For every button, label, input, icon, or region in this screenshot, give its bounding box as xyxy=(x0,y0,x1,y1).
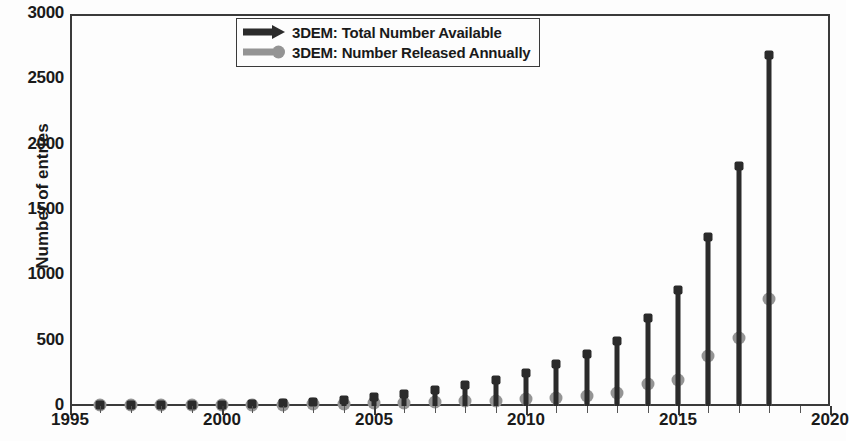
x-tick-mark-minor xyxy=(496,406,497,413)
stem-total xyxy=(671,290,685,406)
y-tick-label: 500 xyxy=(37,330,64,350)
x-tick-label: 2015 xyxy=(659,410,697,430)
x-tick-label: 2010 xyxy=(507,410,545,430)
x-tick-mark-minor xyxy=(617,406,618,413)
stem-arrow-marker-icon xyxy=(582,349,591,358)
stem-total xyxy=(519,373,533,406)
x-tick-mark-minor xyxy=(283,406,284,413)
stem-line xyxy=(676,290,681,406)
stem-arrow-marker-icon xyxy=(613,336,622,345)
y-tick-label: 2000 xyxy=(27,134,64,154)
stem-total xyxy=(549,364,563,406)
x-tick-mark-minor xyxy=(556,406,557,413)
x-tick-mark-minor xyxy=(313,406,314,413)
chart-legend: 3DEM: Total Number Available 3DEM: Numbe… xyxy=(236,18,540,67)
stem-line xyxy=(584,354,589,406)
x-tick-mark-minor xyxy=(739,406,740,413)
x-tick-mark-minor xyxy=(648,406,649,413)
stem-line xyxy=(554,364,559,406)
y-tick-label: 2500 xyxy=(27,68,64,88)
y-tick-label: 3000 xyxy=(27,3,64,23)
x-tick-mark-minor xyxy=(800,406,801,413)
x-tick-mark-minor xyxy=(435,406,436,413)
y-tick-label: 1500 xyxy=(27,199,64,219)
x-tick-mark-minor xyxy=(252,406,253,413)
stem-total xyxy=(580,354,594,406)
stem-total xyxy=(489,380,503,406)
stem-total xyxy=(610,341,624,406)
stem-total xyxy=(458,385,472,406)
stem-arrow-marker-icon xyxy=(461,381,470,390)
stem-line xyxy=(767,55,772,406)
stem-total xyxy=(762,55,776,406)
stem-total xyxy=(701,237,715,406)
y-tick-label: 1000 xyxy=(27,264,64,284)
stem-arrow-marker-icon xyxy=(430,385,439,394)
x-tick-mark-minor xyxy=(161,406,162,413)
x-tick-mark-minor xyxy=(587,406,588,413)
legend-item-annual: 3DEM: Number Released Annually xyxy=(243,42,531,62)
x-tick-label: 2020 xyxy=(811,410,849,430)
stem-arrow-marker-icon xyxy=(491,375,500,384)
stem-line xyxy=(524,373,529,406)
stem-total xyxy=(397,394,411,406)
legend-circle-marker-icon xyxy=(243,45,285,59)
stem-line xyxy=(615,341,620,406)
stem-arrow-marker-icon xyxy=(765,50,774,59)
x-tick-mark-minor xyxy=(131,406,132,413)
legend-item-total: 3DEM: Total Number Available xyxy=(243,22,531,42)
x-tick-label: 2000 xyxy=(203,410,241,430)
plot-area xyxy=(70,14,830,406)
x-tick-mark-minor xyxy=(465,406,466,413)
x-tick-mark-minor xyxy=(769,406,770,413)
x-tick-label: 1995 xyxy=(51,410,89,430)
stem-line xyxy=(645,318,650,406)
stem-total xyxy=(732,166,746,406)
stem-total xyxy=(428,390,442,406)
legend-label-annual: 3DEM: Number Released Annually xyxy=(292,44,531,61)
stem-total xyxy=(367,397,381,406)
stem-arrow-marker-icon xyxy=(643,314,652,323)
stem-arrow-marker-icon xyxy=(674,285,683,294)
stem-arrow-marker-icon xyxy=(522,368,531,377)
stem-arrow-marker-icon xyxy=(339,395,348,404)
stem-arrow-marker-icon xyxy=(734,161,743,170)
stem-arrow-marker-icon xyxy=(370,392,379,401)
x-tick-mark-minor xyxy=(404,406,405,413)
stem-arrow-marker-icon xyxy=(704,233,713,242)
stem-line xyxy=(736,166,741,406)
x-tick-mark-minor xyxy=(100,406,101,413)
legend-arrow-marker-icon xyxy=(243,25,285,39)
x-tick-mark-minor xyxy=(192,406,193,413)
x-tick-mark-minor xyxy=(344,406,345,413)
stem-total xyxy=(641,318,655,406)
stem-line xyxy=(706,237,711,406)
x-tick-label: 2005 xyxy=(355,410,393,430)
stem-arrow-marker-icon xyxy=(552,360,561,369)
stem-arrow-marker-icon xyxy=(309,397,318,406)
stem-arrow-marker-icon xyxy=(400,389,409,398)
legend-label-total: 3DEM: Total Number Available xyxy=(292,24,502,41)
x-tick-mark-minor xyxy=(708,406,709,413)
